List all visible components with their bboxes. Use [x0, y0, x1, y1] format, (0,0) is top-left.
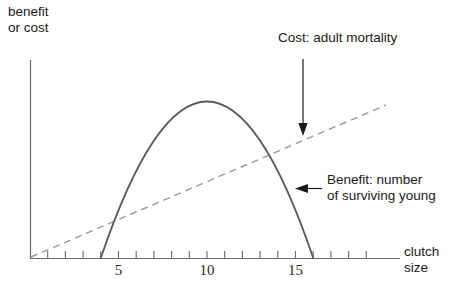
x-axis-title: clutch size — [404, 244, 439, 276]
cost-annotation-label: Cost: adult mortality — [278, 30, 397, 46]
benefit-annotation-arrow — [295, 184, 322, 193]
clutch-size-chart: benefit or cost clutch size Cost: adult … — [0, 0, 468, 307]
cost-annotation-arrow — [298, 59, 307, 136]
y-axis-title: benefit or cost — [8, 4, 49, 36]
x-axis-ticks — [48, 251, 367, 258]
benefit-parabola-curve — [101, 102, 313, 259]
x-tick-label-15: 15 — [288, 262, 303, 279]
chart-canvas — [0, 0, 468, 307]
benefit-annotation-label: Benefit: number of surviving young — [327, 172, 436, 204]
x-tick-label-10: 10 — [200, 262, 215, 279]
x-tick-label-5: 5 — [115, 262, 123, 279]
